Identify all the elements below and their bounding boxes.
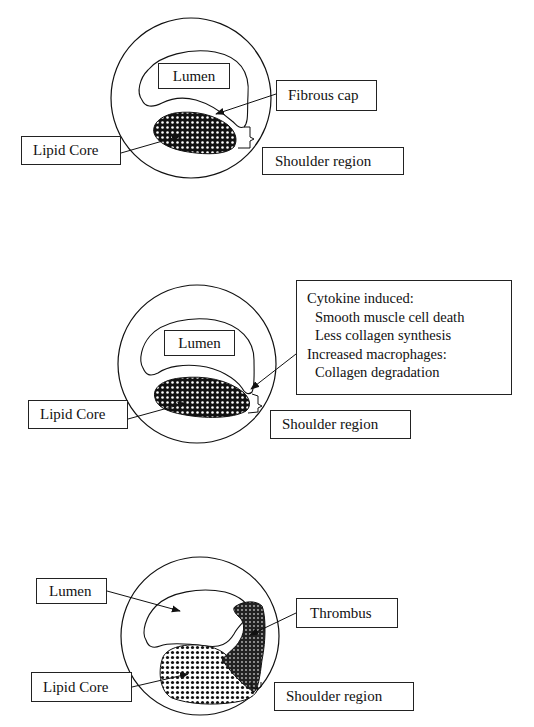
lipid-core-shape	[154, 112, 236, 154]
lipid-core-label: Lipid Core	[21, 136, 121, 165]
mechanism-line: Cytokine induced:	[307, 289, 503, 308]
lumen-label: Lumen	[158, 63, 230, 89]
lipid-core-label: Lipid Core	[31, 672, 132, 702]
shoulder-bracket	[238, 127, 254, 148]
panel-1-stable-plaque	[111, 18, 276, 178]
thrombus-label: Thrombus	[296, 598, 398, 628]
mechanism-line: Less collagen synthesis	[307, 326, 503, 345]
lumen-label: Lumen	[36, 578, 107, 604]
mechanism-line: Smooth muscle cell death	[307, 308, 503, 327]
lumen-outline	[144, 590, 250, 647]
lipid-core-label: Lipid Core	[28, 400, 128, 429]
shoulder-region-label: Shoulder region	[262, 147, 404, 175]
shoulder-bracket	[248, 394, 262, 413]
shoulder-region-label: Shoulder region	[274, 682, 414, 711]
panel-3-ruptured-plaque	[107, 557, 296, 715]
mechanism-text-box: Cytokine induced: Smooth muscle cell dea…	[296, 280, 512, 395]
mechanism-line: Increased macrophages:	[307, 345, 503, 364]
shoulder-region-label: Shoulder region	[270, 410, 411, 439]
lumen-label: Lumen	[164, 330, 235, 356]
mechanism-line: Collagen degradation	[307, 363, 503, 382]
fibrous-cap-label: Fibrous cap	[276, 80, 377, 111]
lipid-core-shape	[154, 377, 249, 417]
